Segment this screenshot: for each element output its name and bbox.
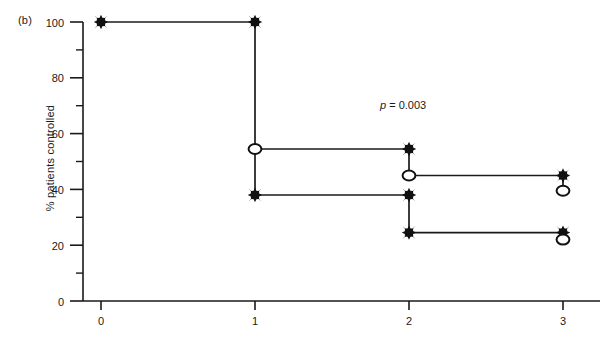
marker-star (94, 15, 108, 29)
y-tick-label: 20 (52, 240, 64, 252)
x-tick-label: 0 (98, 315, 104, 327)
marker-star (402, 142, 416, 156)
marker-circle (557, 186, 570, 196)
p-value-text: = 0.003 (386, 99, 426, 111)
y-tick-label: 80 (52, 72, 64, 84)
series-markers (94, 15, 570, 245)
y-axis (70, 22, 83, 301)
y-tick-labels: 0 20 40 60 80 100 (46, 17, 64, 308)
p-value-annotation: p = 0.003 (379, 99, 426, 111)
y-tick-label: 60 (52, 128, 64, 140)
x-tick-label: 3 (560, 315, 566, 327)
x-axis (83, 301, 600, 310)
y-tick-label: 0 (58, 296, 64, 308)
marker-star (248, 15, 262, 29)
marker-circle (403, 171, 416, 181)
series-lines (101, 22, 563, 240)
marker-star (402, 225, 416, 239)
x-tick-label: 1 (252, 315, 258, 327)
chart-plot-area: 0 20 40 60 80 100 0 1 2 3 (0, 0, 608, 348)
marker-star (248, 188, 262, 202)
marker-star (402, 188, 416, 202)
x-tick-labels: 0 1 2 3 (98, 315, 566, 327)
y-tick-label: 40 (52, 184, 64, 196)
marker-circle (557, 235, 570, 245)
x-tick-label: 2 (406, 315, 412, 327)
p-symbol: p (379, 99, 386, 111)
figure-panel-b: (b) % patients controlled (0, 0, 608, 348)
marker-star (556, 168, 570, 182)
marker-circle (249, 144, 262, 154)
y-tick-label: 100 (46, 17, 64, 29)
